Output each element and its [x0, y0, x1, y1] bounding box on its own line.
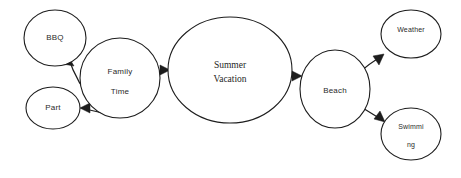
node-label-swimming-line1: Swimmi — [398, 123, 424, 130]
node-swimming[interactable]: Swimmi ng — [381, 108, 441, 160]
node-label-vacation: Vacation — [213, 74, 246, 84]
arrowhead-icon — [80, 103, 90, 113]
diagram-canvas: BBQ Part Family Time Summer Vacation — [0, 0, 461, 178]
node-weather[interactable]: Weather — [381, 10, 441, 58]
node-shape — [80, 38, 160, 118]
node-label-swimming-line2: ng — [407, 141, 415, 149]
node-beach[interactable]: Beach — [300, 50, 370, 128]
node-label-family: Family — [108, 67, 133, 76]
node-shape — [381, 10, 441, 58]
node-label-time: Time — [111, 87, 130, 96]
node-bbq[interactable]: BBQ — [24, 10, 86, 66]
node-shape — [381, 108, 441, 160]
node-label-weather: Weather — [397, 26, 425, 33]
arrowhead-icon — [374, 111, 385, 122]
node-label-bbq: BBQ — [46, 33, 64, 42]
node-label-part: Part — [45, 103, 61, 112]
node-family-time[interactable]: Family Time — [80, 38, 160, 118]
node-part[interactable]: Part — [26, 87, 80, 129]
mind-map-diagram: BBQ Part Family Time Summer Vacation — [0, 0, 461, 178]
node-label-beach: Beach — [323, 86, 347, 95]
node-label-summer: Summer — [214, 60, 247, 70]
arrowhead-icon — [373, 54, 384, 65]
node-summer-vacation[interactable]: Summer Vacation — [168, 17, 292, 123]
node-layer: BBQ Part Family Time Summer Vacation — [24, 10, 441, 160]
